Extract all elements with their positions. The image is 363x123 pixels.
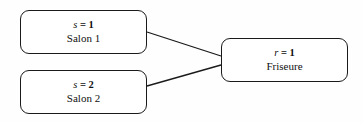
- edge-salon-1-friseure: [147, 32, 221, 56]
- diagram-canvas: s = 1 Salon 1 s = 2 Salon 2 r = 1 Friseu…: [0, 0, 363, 123]
- node-salon-1-variable: s: [73, 19, 77, 30]
- node-salon-1[interactable]: s = 1 Salon 1: [20, 10, 147, 54]
- node-salon-2-operator: =: [80, 79, 86, 90]
- node-friseure[interactable]: r = 1 Friseure: [221, 38, 348, 82]
- node-salon-2-value: 2: [89, 79, 94, 90]
- node-salon-1-identifier: s = 1: [73, 19, 94, 31]
- node-salon-2-identifier: s = 2: [73, 79, 94, 91]
- node-salon-1-label: Salon 1: [67, 32, 100, 45]
- node-salon-2-label: Salon 2: [67, 92, 100, 105]
- node-friseure-value: 1: [290, 47, 295, 58]
- node-salon-2[interactable]: s = 2 Salon 2: [20, 70, 147, 114]
- node-salon-2-variable: s: [73, 79, 77, 90]
- node-friseure-label: Friseure: [266, 60, 302, 73]
- node-friseure-operator: =: [281, 47, 287, 58]
- node-salon-1-value: 1: [89, 19, 94, 30]
- edge-salon-2-friseure: [147, 65, 221, 86]
- node-salon-1-operator: =: [80, 19, 86, 30]
- node-friseure-identifier: r = 1: [274, 47, 295, 59]
- node-friseure-variable: r: [274, 47, 278, 58]
